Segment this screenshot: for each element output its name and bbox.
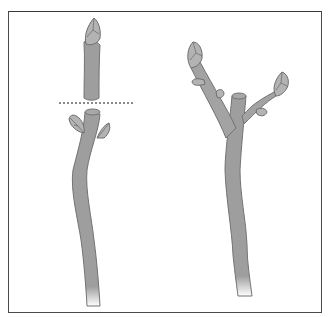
shoot-side-bud-icon [216,89,224,97]
pruned-stem [69,109,110,306]
shoot-tip-bud-right-icon [274,72,288,96]
side-bud-right-icon [97,123,110,138]
cut-off-tip [84,18,100,100]
shoot-side-bud-icon [256,108,267,115]
pruning-diagram [0,0,331,317]
regrown-stem [188,42,289,296]
shoot-side-bud-icon [192,79,205,86]
cut-surface [85,109,100,115]
cut-surface [232,93,246,99]
terminal-bud-icon [85,18,100,45]
side-bud-left-icon [69,115,84,133]
